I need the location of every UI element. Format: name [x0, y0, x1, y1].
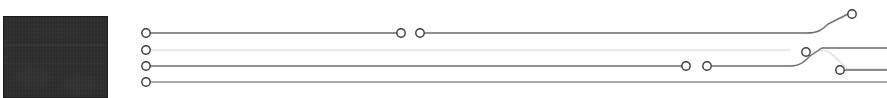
wire-connector-node[interactable]: [397, 29, 405, 37]
wire-connector-node[interactable]: [802, 48, 810, 56]
wire-connector-node[interactable]: [703, 62, 711, 70]
wire-track: [142, 78, 887, 86]
wire-connector-node[interactable]: [836, 66, 844, 74]
wire-track: [142, 48, 887, 74]
wire-connector-node[interactable]: [142, 29, 150, 37]
wire-connector-node[interactable]: [142, 78, 150, 86]
signal-routing-wire-graph[interactable]: [0, 0, 887, 98]
wire-track: [142, 10, 856, 37]
wire-connector-node[interactable]: [142, 62, 150, 70]
wire-segment[interactable]: [421, 14, 848, 33]
wire-segment[interactable]: [820, 50, 887, 69]
wire-connector-node[interactable]: [416, 29, 424, 37]
screenshot-root: [0, 0, 887, 98]
wire-connector-node[interactable]: [142, 46, 150, 54]
wire-connector-node[interactable]: [682, 62, 690, 70]
wire-connector-node[interactable]: [848, 10, 856, 18]
